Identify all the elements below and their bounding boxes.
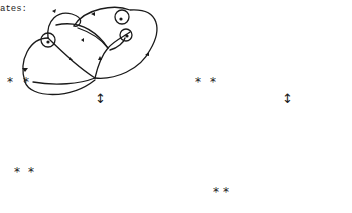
star-marker: * — [223, 186, 229, 198]
star-marker: * — [213, 186, 219, 198]
equivalence-arrow-icon: ↕ — [282, 92, 293, 105]
star-marker: * — [195, 76, 201, 88]
star-marker: * — [210, 76, 216, 88]
diagram-canvas — [0, 0, 352, 213]
star-marker: * — [14, 166, 20, 178]
equivalence-arrow-icon: ↕ — [95, 92, 106, 105]
star-marker: * — [23, 76, 29, 88]
diagram-top-left — [22, 7, 157, 94]
star-marker: * — [28, 166, 34, 178]
star-marker: * — [7, 76, 13, 88]
